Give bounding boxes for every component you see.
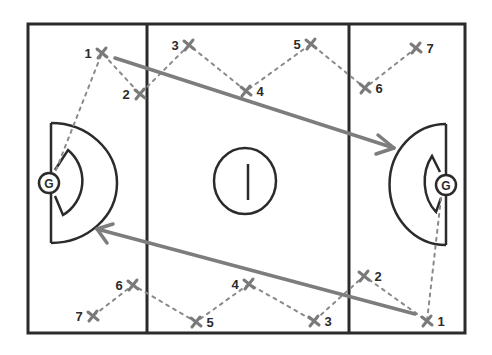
player-number-label: 3 [324, 314, 331, 329]
right-goal-label: G [441, 179, 450, 193]
bottom-team-pass-path [93, 198, 441, 322]
netball-court-diagram: G G 1234567 1234567 [0, 0, 492, 355]
top-team-pass-path [56, 44, 416, 170]
top-team-players: 1234567 [84, 37, 433, 102]
player-number-label: 4 [256, 84, 264, 99]
player-number-label: 1 [437, 314, 444, 329]
player-number-label: 6 [115, 278, 122, 293]
player-number-label: 1 [84, 46, 91, 61]
player-number-label: 2 [374, 269, 381, 284]
player-number-label: 5 [293, 37, 300, 52]
bottom-team-player-4: 4 [231, 277, 254, 292]
top-team-arrow [115, 58, 394, 148]
right-goal-area: G [390, 124, 456, 245]
player-number-label: 2 [122, 87, 129, 102]
bottom-team-player-1: 1 [422, 314, 445, 329]
bottom-team-player-3: 3 [309, 314, 332, 329]
bottom-team-player-7: 7 [75, 309, 98, 324]
top-team-player-1: 1 [84, 46, 107, 61]
center-circle [214, 148, 276, 214]
player-number-label: 3 [171, 38, 178, 53]
player-number-label: 7 [426, 41, 433, 56]
bottom-team-players: 1234567 [75, 269, 444, 330]
top-team-player-2: 2 [122, 87, 145, 102]
top-team-player-4: 4 [241, 84, 264, 99]
player-number-label: 6 [375, 81, 382, 96]
player-number-label: 5 [206, 315, 213, 330]
player-number-label: 7 [75, 309, 82, 324]
left-goal-label: G [44, 177, 53, 191]
top-team-player-7: 7 [411, 41, 434, 56]
top-team-player-5: 5 [293, 37, 316, 52]
player-number-label: 4 [231, 277, 239, 292]
bottom-team-player-2: 2 [359, 269, 382, 284]
